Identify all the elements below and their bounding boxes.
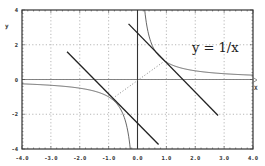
y-tick-label: -2 bbox=[11, 111, 18, 117]
y-tick-label: 0 bbox=[15, 77, 18, 83]
x-axis-label: X bbox=[254, 84, 258, 91]
y-tick-labels: 420-2-4 bbox=[11, 7, 18, 152]
tangent-line bbox=[67, 52, 159, 145]
x-tick-label: -1.0 bbox=[102, 155, 115, 161]
tangent-line bbox=[129, 24, 219, 116]
function-annotation: y = 1/x bbox=[191, 40, 239, 55]
x-tick-label: -3.0 bbox=[44, 155, 57, 161]
x-tick-label: 3.0 bbox=[219, 155, 229, 161]
curve-reciprocal bbox=[22, 84, 130, 149]
x-tick-label: -4.0 bbox=[15, 155, 28, 161]
x-tick-label: 4.0 bbox=[248, 155, 258, 161]
x-tick-label: -2.0 bbox=[73, 155, 86, 161]
y-axis-label: y bbox=[5, 22, 9, 30]
x-tick-labels: -4.0-3.0-2.0-1.00.01.02.03.04.0 bbox=[15, 155, 258, 161]
x-tick-label: 2.0 bbox=[190, 155, 200, 161]
y-tick-label: 4 bbox=[15, 7, 19, 13]
zero-axes bbox=[22, 10, 253, 149]
x-tick-label: 1.0 bbox=[161, 155, 171, 161]
y-tick-label: 2 bbox=[15, 42, 18, 48]
y-tick-label: -4 bbox=[11, 146, 18, 152]
chart: -4.0-3.0-2.0-1.00.01.02.03.04.0 420-2-4 … bbox=[0, 0, 265, 166]
x-tick-label: 0.0 bbox=[133, 155, 143, 161]
x-axis-arrow-icon bbox=[253, 78, 257, 83]
